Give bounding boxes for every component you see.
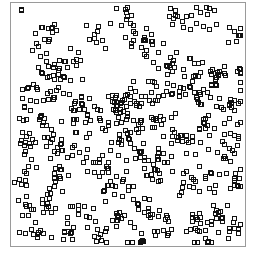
data-point	[235, 143, 240, 148]
data-point	[131, 79, 136, 84]
data-point	[179, 133, 184, 138]
data-point	[149, 32, 154, 37]
data-point	[124, 117, 129, 122]
data-point	[102, 188, 107, 193]
data-point	[170, 169, 175, 174]
data-point	[40, 201, 45, 206]
data-point	[142, 37, 147, 42]
data-point	[28, 98, 33, 103]
data-point	[155, 98, 160, 103]
data-point	[233, 171, 238, 176]
data-point	[236, 134, 241, 139]
data-point	[34, 165, 39, 170]
data-point	[197, 164, 202, 169]
data-point	[74, 130, 79, 135]
data-point	[157, 208, 162, 213]
data-point	[71, 117, 76, 122]
data-point	[103, 199, 108, 204]
data-point	[52, 77, 57, 82]
data-point	[220, 219, 225, 224]
data-point	[51, 132, 56, 137]
data-point	[156, 214, 161, 219]
data-point	[184, 169, 189, 174]
data-point	[114, 104, 119, 109]
data-point	[106, 166, 111, 171]
data-point	[58, 142, 63, 147]
data-point	[61, 237, 66, 242]
data-point	[82, 204, 87, 209]
data-point	[103, 46, 108, 51]
data-point	[46, 26, 51, 31]
data-point	[150, 101, 155, 106]
data-point	[222, 64, 227, 69]
data-point	[133, 89, 138, 94]
data-point	[170, 22, 175, 27]
data-point	[214, 83, 219, 88]
data-point	[22, 105, 27, 110]
data-point	[92, 170, 97, 175]
data-point	[173, 8, 178, 13]
data-point	[193, 152, 198, 157]
data-point	[49, 210, 54, 215]
data-point	[216, 230, 221, 235]
data-point	[190, 219, 195, 224]
data-point	[220, 139, 225, 144]
data-point	[144, 48, 149, 53]
data-point	[53, 166, 58, 171]
data-point	[159, 122, 164, 127]
data-point	[149, 172, 154, 177]
data-point	[209, 72, 214, 77]
data-point	[165, 72, 170, 77]
data-point	[119, 142, 124, 147]
data-point	[44, 144, 49, 149]
data-point	[58, 176, 63, 181]
data-point	[152, 125, 157, 130]
data-point	[197, 127, 202, 132]
data-point	[61, 91, 66, 96]
data-point	[33, 220, 38, 225]
data-point	[65, 65, 70, 70]
data-point	[48, 156, 53, 161]
data-point	[98, 232, 103, 237]
data-point	[82, 107, 87, 112]
data-point	[63, 59, 68, 64]
data-point	[53, 179, 58, 184]
data-point	[188, 27, 193, 32]
data-point	[132, 225, 137, 230]
data-point	[124, 158, 129, 163]
data-point	[114, 121, 119, 126]
data-point	[45, 135, 50, 140]
data-point	[141, 141, 146, 146]
data-point	[23, 231, 28, 236]
data-point	[68, 46, 73, 51]
data-point	[23, 178, 28, 183]
data-point	[221, 107, 226, 112]
data-point	[29, 157, 34, 162]
data-point	[112, 192, 117, 197]
data-point	[136, 207, 141, 212]
data-point	[74, 63, 79, 68]
data-point	[170, 134, 175, 139]
data-point	[44, 51, 49, 56]
data-point	[108, 148, 113, 153]
data-point	[85, 113, 90, 118]
data-point	[199, 102, 204, 107]
data-point	[134, 127, 139, 132]
data-point	[136, 202, 141, 207]
data-point	[70, 153, 75, 158]
data-point	[128, 141, 133, 146]
data-point	[144, 26, 149, 31]
data-point	[23, 140, 28, 145]
data-point	[36, 65, 41, 70]
data-point	[171, 16, 176, 21]
data-point	[39, 25, 44, 30]
data-point	[125, 240, 130, 245]
data-point	[152, 229, 157, 234]
data-point	[62, 75, 67, 80]
data-point	[183, 92, 188, 97]
data-point	[66, 173, 71, 178]
data-point	[48, 89, 53, 94]
data-point	[232, 183, 237, 188]
data-point	[165, 64, 170, 69]
data-point	[144, 173, 149, 178]
